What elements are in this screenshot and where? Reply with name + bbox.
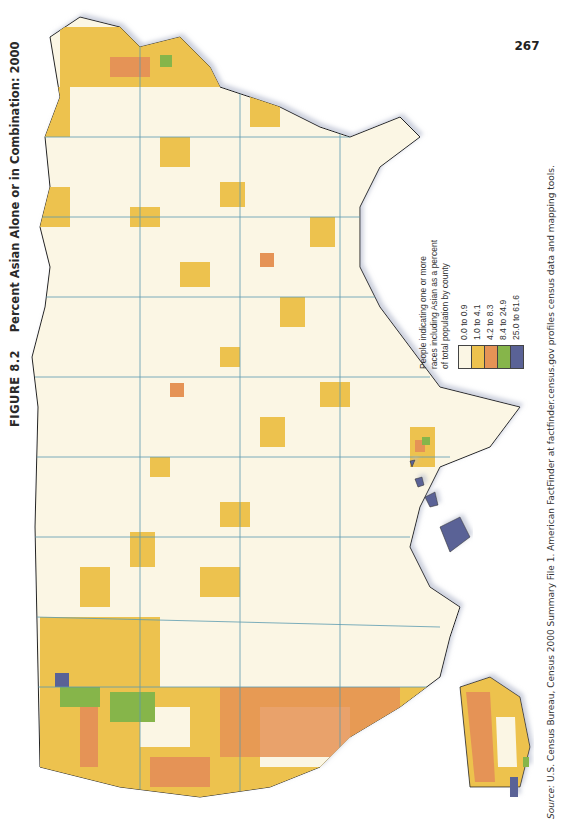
source-note: Source: U.S. Census Bureau, Census 2000 … — [546, 165, 556, 819]
legend-swatch-0 — [459, 346, 472, 368]
legend-title: People indicating one or more races incl… — [418, 239, 452, 369]
legend-label-2: 4.2 to 8.3 — [484, 295, 497, 340]
legend-swatch-4 — [511, 346, 523, 368]
alaska-inset — [460, 677, 530, 797]
legend-swatch-2 — [485, 346, 498, 368]
map-legend: People indicating one or more races incl… — [418, 229, 524, 369]
source-text: U.S. Census Bureau, Census 2000 Summary … — [546, 165, 556, 782]
legend-label-4: 25.0 to 61.6 — [510, 295, 523, 340]
legend-label-1: 1.0 to 4.1 — [471, 295, 484, 340]
legend-label-0: 0.0 to 0.9 — [458, 295, 471, 340]
page-number: 267 — [514, 39, 539, 53]
choropleth-map — [20, 0, 540, 827]
source-prefix: Source: — [546, 785, 556, 819]
legend-label-3: 8.4 to 24.9 — [497, 295, 510, 340]
legend-swatch-1 — [472, 346, 485, 368]
figure-page: FIGURE 8.2 Percent Asian Alone or in Com… — [0, 0, 578, 827]
legend-swatch-3 — [498, 346, 511, 368]
